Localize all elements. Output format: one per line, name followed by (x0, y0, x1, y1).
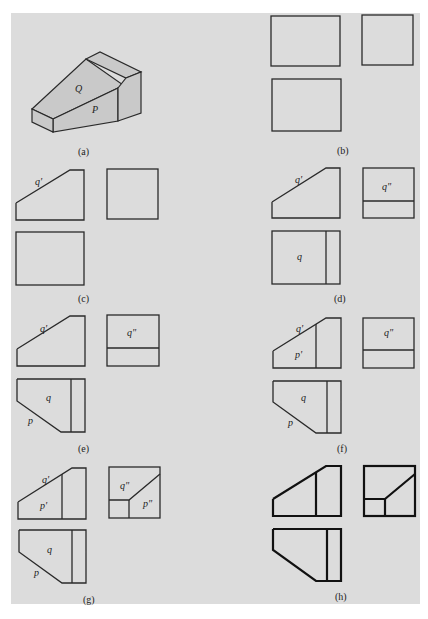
face-right (118, 72, 141, 121)
label-q-front: q' (42, 474, 50, 485)
label-q-side: q" (127, 327, 137, 338)
front-view (16, 170, 84, 220)
panel-d: q' q" q (d) (272, 168, 414, 305)
top-view (273, 381, 341, 433)
orthographic-projection-figure: Q P (a) (b) q' (c) q' q" q (d) q' q" (0, 0, 428, 619)
label-P: P (91, 104, 98, 115)
caption-a: (a) (78, 146, 89, 158)
side-view (363, 168, 414, 218)
label-p-front: p' (294, 349, 303, 360)
side-view (363, 318, 414, 368)
label-q-top: q (301, 392, 306, 403)
panel-c: q' (c) (16, 169, 158, 305)
caption-f: (f) (337, 443, 347, 455)
label-q-front: q' (35, 176, 43, 187)
top-view (16, 232, 84, 285)
side-view (109, 467, 160, 518)
panel-a-isometric-view: Q P (a) (32, 52, 141, 158)
panel-g: q' p' q" p" q p (g) (18, 467, 160, 606)
label-p-top: p (33, 567, 39, 578)
panel-h: (h) (273, 466, 415, 603)
side-view (362, 15, 413, 65)
panel-e: q' q" q p (e) (17, 315, 159, 455)
front-view (271, 16, 340, 66)
label-Q: Q (75, 83, 83, 94)
side-view (364, 466, 415, 516)
label-q-top: q (297, 251, 302, 262)
label-q-top: q (46, 392, 51, 403)
caption-c: (c) (78, 293, 89, 305)
label-q-front: q' (296, 323, 304, 334)
side-view (107, 169, 158, 219)
side-view (107, 315, 159, 366)
front-view (273, 318, 341, 368)
label-p-front: p' (39, 500, 48, 511)
top-view (272, 79, 341, 131)
front-view (18, 468, 86, 519)
front-view (17, 316, 85, 366)
label-q-top: q (47, 544, 52, 555)
label-q-side: q" (384, 327, 394, 338)
top-view (273, 529, 341, 581)
label-q-front: q' (40, 323, 48, 334)
caption-d: (d) (334, 293, 346, 305)
label-p-top: p (287, 417, 293, 428)
front-view (272, 168, 340, 218)
caption-h: (h) (335, 591, 347, 603)
panel-f: q' p' q" q p (f) (273, 318, 414, 455)
label-p-top: p (27, 415, 33, 426)
panel-b: (b) (271, 15, 413, 157)
label-q-side: q" (382, 181, 392, 192)
label-q-front: q' (295, 174, 303, 185)
label-q-side: q" (120, 480, 130, 491)
caption-g: (g) (83, 594, 95, 606)
top-view (272, 231, 340, 284)
top-view (19, 530, 86, 583)
caption-b: (b) (337, 145, 349, 157)
label-p-side: p" (142, 498, 153, 509)
caption-e: (e) (78, 443, 89, 455)
front-view (273, 466, 341, 516)
